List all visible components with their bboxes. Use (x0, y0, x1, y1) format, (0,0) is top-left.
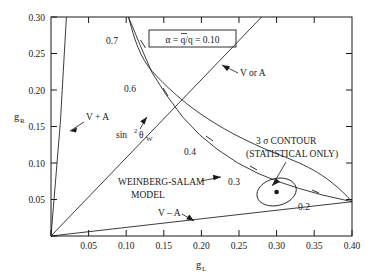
x-tick-label: 0.40 (344, 241, 361, 251)
curve-value-ticks (141, 40, 320, 193)
weinberg-line2-text: MODEL (131, 190, 165, 200)
alpha-box-text: α = q/q = 0.10 (166, 35, 220, 45)
annotation-v-minus-a: V – A (158, 208, 194, 221)
contour-line1-text: 3 σ CONTOUR (256, 136, 317, 146)
contour-line2-text: (STATISTICAL ONLY) (246, 149, 338, 160)
theta-text: θ (139, 130, 144, 140)
annotation-weinberg-salam: WEINBERG-SALAM MODEL (118, 175, 221, 200)
weinberg-line1-text: WEINBERG-SALAM (118, 177, 205, 187)
x-tick-label: 0.10 (118, 241, 135, 251)
x-tick-label: 0.05 (80, 241, 97, 251)
sin-base-text: sin (116, 130, 127, 140)
annotation-v-plus-a: V + A (70, 112, 109, 133)
y-tick-label: 0.20 (28, 86, 45, 96)
y-axis-ticks-right (346, 54, 352, 200)
curve-label-0-7: 0.7 (106, 36, 118, 46)
y-axis-title: g R (14, 111, 25, 125)
annotation-v-plus-a-text: V + A (86, 112, 109, 122)
x-tick-labels: 0.05 0.10 0.15 0.20 0.25 0.30 0.35 0.40 (80, 241, 360, 251)
annotation-v-or-a-text: V or A (240, 68, 266, 78)
y-tick-labels: 0.05 0.10 0.15 0.20 0.25 0.30 (28, 13, 45, 205)
x-tick-label: 0.35 (306, 241, 323, 251)
x-tick-label: 0.30 (268, 241, 285, 251)
y-tick-label: 0.25 (28, 49, 45, 59)
annotation-v-minus-a-text: V – A (158, 208, 181, 218)
curve-v-or-a (51, 17, 262, 236)
plot-canvas: 0.05 0.10 0.15 0.20 0.25 0.30 0.35 0.40 … (0, 0, 373, 276)
x-tick-label: 0.15 (155, 241, 172, 251)
alpha-boxed-annotation: α = q/q = 0.10 (149, 30, 236, 47)
x-axis-title: g L (196, 259, 206, 273)
annotation-v-or-a: V or A (222, 65, 266, 78)
y-tick-label: 0.30 (28, 13, 45, 23)
x-tick-label: 0.20 (193, 241, 210, 251)
curve-label-0-4: 0.4 (184, 147, 196, 157)
x-tick-label: 0.25 (231, 241, 248, 251)
curve-label-0-2: 0.2 (298, 202, 310, 212)
curve-label-0-6: 0.6 (124, 84, 136, 94)
curve-label-0-3: 0.3 (228, 177, 240, 187)
physics-plot-figure: 0.05 0.10 0.15 0.20 0.25 0.30 0.35 0.40 … (0, 0, 373, 276)
y-tick-label: 0.15 (28, 122, 45, 132)
y-axis-title-subscript: R (20, 117, 25, 125)
best-fit-point (274, 190, 279, 195)
y-tick-label: 0.10 (28, 159, 45, 169)
annotation-3sigma-contour: 3 σ CONTOUR (STATISTICAL ONLY) (246, 136, 338, 186)
annotation-sin2-theta-w: sin 2 θ W (116, 117, 153, 143)
sin-exponent-text: 2 (134, 127, 137, 134)
y-tick-label: 0.05 (28, 195, 45, 205)
x-axis-ticks-top (89, 17, 315, 23)
curve-sin2-theta-w-path (129, 17, 353, 202)
x-axis-title-subscript: L (202, 265, 206, 273)
curve-sin2-theta-w (129, 17, 353, 202)
theta-subscript-text: W (146, 135, 153, 143)
